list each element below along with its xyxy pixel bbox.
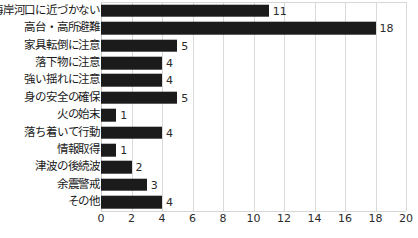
category-label: 情報取得 bbox=[57, 144, 100, 156]
bar-row: 身の安全の確保5 bbox=[101, 89, 406, 106]
bar-row: 落下物に注意4 bbox=[101, 54, 406, 71]
bar bbox=[101, 74, 162, 87]
bar-row: 情報取得1 bbox=[101, 141, 406, 158]
category-label: 余震警戒 bbox=[57, 179, 100, 191]
bar-row: 余震警戒3 bbox=[101, 176, 406, 193]
bar-row: 高台・高所避難18 bbox=[101, 19, 406, 36]
category-label: 家具転倒に注意 bbox=[24, 40, 100, 52]
bar-value-label: 4 bbox=[166, 197, 173, 208]
category-label: 身の安全の確保 bbox=[24, 92, 100, 104]
bar bbox=[101, 4, 269, 17]
bar-row: 落ち着いて行動4 bbox=[101, 124, 406, 141]
x-tick-label-4: 4 bbox=[159, 213, 166, 224]
bar-value-label: 4 bbox=[166, 57, 173, 68]
x-tick-label-18: 18 bbox=[369, 213, 383, 224]
bar-value-label: 2 bbox=[136, 162, 143, 173]
category-label: 高台・高所避難 bbox=[24, 22, 100, 34]
x-tick-label-12: 12 bbox=[277, 213, 291, 224]
bar-value-label: 1 bbox=[120, 110, 127, 121]
bar-value-label: 4 bbox=[166, 75, 173, 86]
bar-value-label: 3 bbox=[151, 179, 158, 190]
x-tick-label-10: 10 bbox=[247, 213, 261, 224]
bar-row: 強い揺れに注意4 bbox=[101, 72, 406, 89]
bar-value-label: 4 bbox=[166, 127, 173, 138]
bar bbox=[101, 109, 116, 122]
bar bbox=[101, 126, 162, 139]
bar-row: 海岸河口に近づかない11 bbox=[101, 2, 406, 19]
category-label: 落ち着いて行動 bbox=[24, 127, 100, 139]
category-label: 海岸河口に近づかない bbox=[0, 5, 100, 17]
x-tick-label-6: 6 bbox=[189, 213, 196, 224]
x-tick-label-14: 14 bbox=[308, 213, 322, 224]
x-tick-label-2: 2 bbox=[128, 213, 135, 224]
bar bbox=[101, 39, 177, 52]
plot-area: 海岸河口に近づかない11高台・高所避難18家具転倒に注意5落下物に注意4強い揺れ… bbox=[101, 2, 406, 211]
x-tick-label-20: 20 bbox=[399, 213, 413, 224]
bar-row: 家具転倒に注意5 bbox=[101, 37, 406, 54]
bar-value-label: 5 bbox=[181, 92, 188, 103]
bar bbox=[101, 179, 147, 192]
bar bbox=[101, 91, 177, 104]
category-label: 火の始末 bbox=[57, 109, 100, 121]
bar bbox=[101, 22, 376, 35]
category-label: その他 bbox=[68, 197, 100, 209]
category-label: 津波の後続波 bbox=[35, 162, 100, 174]
bar-row: 火の始末1 bbox=[101, 107, 406, 124]
bar bbox=[101, 144, 116, 157]
bar-value-label: 11 bbox=[273, 5, 287, 16]
bar-row: 津波の後続波2 bbox=[101, 159, 406, 176]
bar-row: その他4 bbox=[101, 194, 406, 211]
bar bbox=[101, 161, 132, 174]
bar-chart: 海岸河口に近づかない11高台・高所避難18家具転倒に注意5落下物に注意4強い揺れ… bbox=[0, 0, 418, 238]
bar-value-label: 18 bbox=[380, 23, 394, 34]
category-label: 落下物に注意 bbox=[35, 57, 100, 69]
x-tick-label-8: 8 bbox=[220, 213, 227, 224]
x-tick-label-0: 0 bbox=[98, 213, 105, 224]
x-tick-label-16: 16 bbox=[338, 213, 352, 224]
bar bbox=[101, 57, 162, 70]
bar-value-label: 5 bbox=[181, 40, 188, 51]
bar-value-label: 1 bbox=[120, 145, 127, 156]
category-label: 強い揺れに注意 bbox=[24, 75, 100, 87]
gridline-20 bbox=[406, 2, 407, 211]
bar bbox=[101, 196, 162, 209]
